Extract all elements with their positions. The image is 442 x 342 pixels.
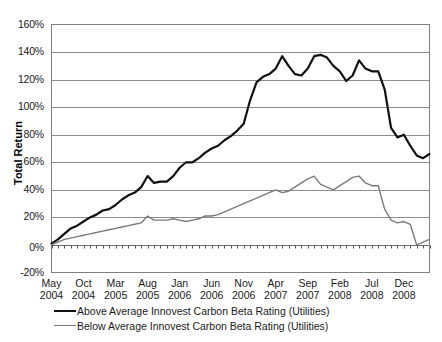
legend-item-below-average: Below Average Innovest Carbon Beta Ratin… bbox=[54, 318, 384, 333]
x-tick-label: Dec2008 bbox=[379, 277, 429, 301]
x-tick-month: Dec bbox=[379, 277, 429, 289]
legend-line-swatch-gray bbox=[54, 325, 76, 326]
legend-label: Below Average Innovest Carbon Beta Ratin… bbox=[77, 320, 328, 332]
plot-area bbox=[0, 0, 442, 300]
legend-line-swatch-black bbox=[54, 310, 76, 312]
chart-container: Total Return 160% 140% 120% 100% 80% 60%… bbox=[0, 0, 442, 342]
legend-label: Above Average Innovest Carbon Beta Ratin… bbox=[77, 305, 330, 317]
data-lines bbox=[52, 55, 430, 245]
x-tick-year: 2008 bbox=[379, 289, 429, 301]
series-line-above-average bbox=[52, 55, 430, 244]
series-line-below-average bbox=[52, 176, 430, 245]
axis-frame bbox=[52, 25, 430, 273]
legend-item-above-average: Above Average Innovest Carbon Beta Ratin… bbox=[54, 303, 384, 318]
grid-lines bbox=[52, 53, 430, 246]
chart-legend: Above Average Innovest Carbon Beta Ratin… bbox=[54, 303, 384, 333]
